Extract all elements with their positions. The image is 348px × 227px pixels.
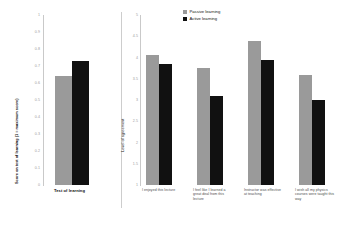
chart-test-of-learning: Score on test of learning (1 = maximum s… (0, 0, 120, 227)
legend-item-passive: Passive learning (183, 8, 220, 15)
legend-swatch-active-icon (183, 17, 187, 21)
legend-item-active: Active learning (183, 15, 220, 22)
x-axis-category-label: I wish all my physics courses were taugh… (295, 188, 335, 201)
plot-area-right (141, 15, 345, 185)
legend-swatch-passive-icon (183, 10, 187, 14)
bar-active (261, 60, 274, 185)
y-tick-label: 0.3 (35, 132, 40, 136)
y-tick-label: 1 (136, 183, 138, 187)
bar-passive (197, 68, 210, 185)
y-tick-label: 2 (136, 141, 138, 145)
y-tick-label: 5 (136, 13, 138, 17)
y-tick-label: 0.7 (35, 64, 40, 68)
chart-survey-agreement: Level of agreement 54.543.532.521.51 I e… (121, 0, 348, 227)
plot-area-left (44, 15, 116, 185)
y-tick-label: 0 (38, 183, 40, 187)
bar-active (312, 100, 325, 185)
y-tick-label: 0.8 (35, 47, 40, 51)
y-tick-label: 3.5 (133, 77, 138, 81)
y-tick-label: 0.2 (35, 149, 40, 153)
y-tick-label: 0.9 (35, 30, 40, 34)
y-tick-label: 0.4 (35, 115, 40, 119)
y-tick-label: 3 (136, 98, 138, 102)
x-axis-category-label: Test of learning (54, 188, 94, 193)
figure-root: Score on test of learning (1 = maximum s… (0, 0, 348, 227)
y-tick-label: 1.5 (133, 162, 138, 166)
bar-group (299, 15, 325, 185)
x-axis-category-label: I feel like I learned a great deal from … (193, 188, 233, 201)
y-tick-label: 1 (38, 13, 40, 17)
y-tick-label: 0.1 (35, 166, 40, 170)
x-axis-category-label: Instructor was effective at teaching (244, 188, 284, 197)
legend: Passive learningActive learning (183, 8, 220, 22)
y-tick-label: 4.5 (133, 34, 138, 38)
bar-active (210, 96, 223, 185)
bar-passive (146, 55, 159, 185)
bar-group (248, 15, 274, 185)
y-axis-ticks-right: 54.543.532.521.51 (113, 0, 138, 227)
y-axis-ticks-left: 10.90.80.70.60.50.40.30.20.10 (0, 0, 40, 227)
bar-passive (299, 75, 312, 186)
bar-group (146, 15, 172, 185)
bar-group (197, 15, 223, 185)
legend-label: Active learning (190, 16, 217, 21)
legend-label: Passive learning (190, 9, 221, 14)
y-tick-label: 2.5 (133, 119, 138, 123)
bar-passive (55, 76, 72, 185)
bar-active (72, 61, 89, 185)
x-axis-category-label: I enjoyed this lecture (142, 188, 182, 192)
y-tick-label: 0.6 (35, 81, 40, 85)
y-tick-label: 0.5 (35, 98, 40, 102)
y-tick-label: 4 (136, 56, 138, 60)
bar-active (159, 64, 172, 185)
bar-group (55, 15, 89, 185)
bar-passive (248, 41, 261, 186)
